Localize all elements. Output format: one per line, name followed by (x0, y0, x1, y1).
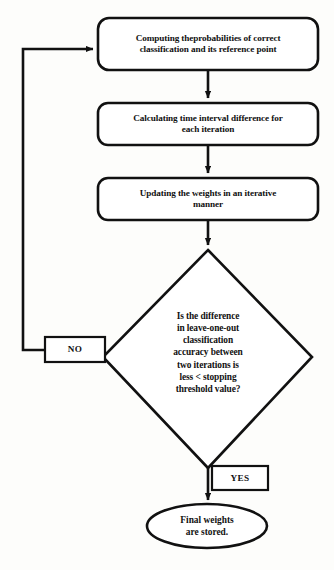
flowchart-canvas: Computing theprobabilities of correct cl… (0, 0, 334, 570)
process-box-2 (98, 103, 318, 145)
yes-label-box (212, 466, 268, 490)
process-box-1 (98, 18, 318, 70)
flowchart-graphics (0, 0, 334, 570)
decision-diamond (103, 250, 312, 468)
terminal-ellipse (147, 504, 267, 548)
connector-decision-feedback-loop (23, 49, 93, 350)
process-box-3 (98, 178, 318, 220)
no-label-box (45, 337, 105, 362)
